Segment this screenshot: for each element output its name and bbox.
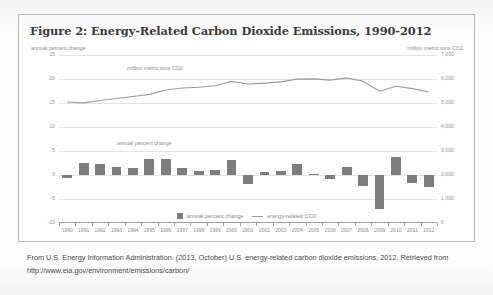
scanned-page: Figure 2: Energy-Related Carbon Dioxide … (0, 0, 493, 295)
x-axis-label: 2004 (292, 227, 303, 233)
x-axis-label: 2003 (275, 227, 286, 233)
line-series (59, 55, 437, 223)
x-axis-tick-mark (355, 223, 356, 226)
y-axis-right-tick-label: 4,000 (441, 124, 454, 129)
x-axis-tick-mark (158, 223, 159, 226)
y-axis-right-tick-label: 1,000 (441, 196, 454, 201)
figure-caption-box: From U.S. Energy Information Administrat… (18, 248, 475, 286)
x-axis-tick-mark (289, 223, 290, 226)
chart-plot-area: -10-50510152025 01,0002,0003,0004,0005,0… (59, 55, 437, 223)
legend-label-bars: annual percent change (186, 213, 243, 219)
x-axis-line (59, 222, 437, 223)
legend-swatch-icon (177, 213, 183, 219)
x-axis-tick-mark (388, 223, 389, 226)
y-axis-right-tick-label: 5,000 (441, 100, 454, 105)
x-axis-label: 1997 (177, 227, 188, 233)
y-axis-right-tick-label: 6,000 (441, 76, 454, 81)
y-axis-right-tick-label: 3,000 (441, 148, 454, 153)
right-axis-unit-label: million metric tons CO2 (407, 45, 463, 51)
y-axis-left-tick-label: 25 (49, 52, 55, 57)
x-axis-label: 2012 (423, 227, 434, 233)
y-axis-left-tick-label: 5 (52, 148, 55, 153)
x-axis-label: 2007 (341, 227, 352, 233)
y-axis-left-tick-label: -5 (50, 196, 55, 201)
x-axis-tick-mark (404, 223, 405, 226)
x-axis-label: 1996 (160, 227, 171, 233)
figure-panel: Figure 2: Energy-Related Carbon Dioxide … (18, 14, 475, 242)
x-axis-tick-mark (207, 223, 208, 226)
x-axis-tick-mark (306, 223, 307, 226)
x-axis-tick-mark (75, 223, 76, 226)
legend-item-bars: annual percent change (177, 213, 243, 219)
x-axis-tick-mark (108, 223, 109, 226)
line-path (67, 78, 429, 103)
x-axis-tick-mark (240, 223, 241, 226)
legend-item-line: energy-related CO2 (252, 213, 316, 219)
chart-legend: annual percent change energy-related CO2 (19, 213, 474, 219)
y-axis-left-tick-label: 15 (49, 100, 55, 105)
x-axis-label: 1990 (62, 227, 73, 233)
x-axis-label: 1994 (127, 227, 138, 233)
y-axis-right-tick-label: 2,000 (441, 172, 454, 177)
x-axis-label: 1992 (95, 227, 106, 233)
legend-line-icon (252, 216, 263, 217)
x-axis-tick-mark (273, 223, 274, 226)
y-axis-left-tick-label: 10 (49, 124, 55, 129)
legend-label-line: energy-related CO2 (267, 213, 316, 219)
figure-caption: From U.S. Energy Information Administrat… (18, 248, 475, 277)
x-axis-label: 2008 (357, 227, 368, 233)
x-axis-label: 2002 (259, 227, 270, 233)
y-axis-left-tick-label: 20 (49, 76, 55, 81)
x-axis-tick-mark (223, 223, 224, 226)
x-axis-label: 2000 (226, 227, 237, 233)
x-axis-tick-mark (371, 223, 372, 226)
y-axis-left-tick-label: -10 (48, 220, 56, 225)
left-axis-unit-label: annual percent change (31, 45, 86, 51)
x-axis-label: 2010 (390, 227, 401, 233)
x-axis-label: 1999 (210, 227, 221, 233)
x-axis-label: 2011 (407, 227, 418, 233)
x-axis-tick-mark (141, 223, 142, 226)
figure-title: Figure 2: Energy-Related Carbon Dioxide … (30, 24, 431, 38)
y-axis-left-tick-label: 0 (52, 172, 55, 177)
x-axis-tick-mark (256, 223, 257, 226)
x-axis-label: 1991 (78, 227, 89, 233)
x-axis-label: 2009 (374, 227, 385, 233)
x-axis-tick-mark (338, 223, 339, 226)
x-axis-tick-mark (322, 223, 323, 226)
x-axis-tick-mark (174, 223, 175, 226)
x-axis-label: 2001 (242, 227, 253, 233)
x-axis-tick-mark (437, 223, 438, 226)
x-axis-label: 1995 (144, 227, 155, 233)
x-axis-label: 1998 (193, 227, 204, 233)
x-axis-label: 1993 (111, 227, 122, 233)
y-axis-right-tick-label: 7,000 (441, 52, 454, 57)
x-axis-tick-mark (125, 223, 126, 226)
x-axis-label: 2005 (308, 227, 319, 233)
x-axis-tick-mark (59, 223, 60, 226)
x-axis-tick-mark (92, 223, 93, 226)
x-axis-tick-mark (421, 223, 422, 226)
x-axis-label: 2006 (325, 227, 336, 233)
y-axis-right-tick-label: 0 (441, 220, 444, 225)
x-axis-tick-mark (190, 223, 191, 226)
